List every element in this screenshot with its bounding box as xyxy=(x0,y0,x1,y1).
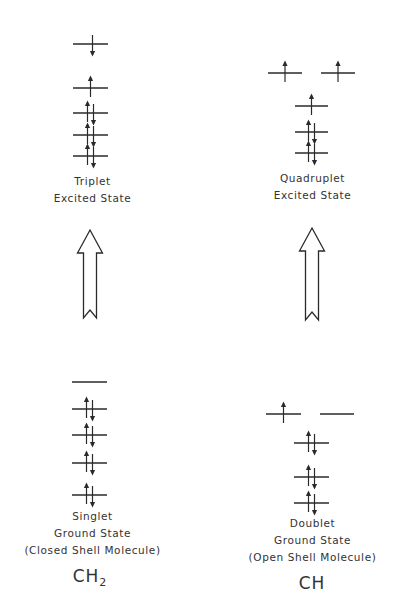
ch-excited-state-text: Excited State xyxy=(250,187,375,204)
ch-formula: CH xyxy=(262,573,362,593)
orbital-level-paired xyxy=(295,120,328,145)
orbital-level-paired xyxy=(294,491,329,516)
orbital-level-paired xyxy=(73,123,108,148)
orbital-level-paired xyxy=(73,144,108,169)
ch-ground-multiplicity: Doublet xyxy=(225,515,400,532)
ch2-ground-state-text: Ground State xyxy=(5,525,180,542)
ch-formula-main: CH xyxy=(299,573,326,593)
orbital-level-single-up xyxy=(321,61,355,83)
orbital-level-single-up xyxy=(73,76,108,98)
ch2-ground-state-label: Singlet Ground State (Closed Shell Molec… xyxy=(5,508,180,559)
ch-ground-state-label: Doublet Ground State (Open Shell Molecul… xyxy=(225,515,400,566)
ch2-excited-state-text: Excited State xyxy=(30,190,155,207)
orbital-level-single-up xyxy=(266,402,301,424)
orbital-level-paired xyxy=(72,483,107,508)
orbital-level-paired xyxy=(295,141,328,166)
ch-excited-multiplicity: Quadruplet xyxy=(250,170,375,187)
ch-transition-arrow-icon xyxy=(300,228,325,320)
orbital-level-single-up xyxy=(268,61,302,83)
ch2-excited-multiplicity: Triplet xyxy=(30,173,155,190)
ch2-formula-main: CH xyxy=(73,566,100,586)
orbital-level-paired xyxy=(72,451,107,476)
transition-arrows xyxy=(78,228,325,320)
orbital-level-paired xyxy=(294,465,329,490)
orbital-level-single-down xyxy=(73,35,108,57)
ch-excited-state-label: Quadruplet Excited State xyxy=(250,170,375,204)
ch2-ground-multiplicity: Singlet xyxy=(5,508,180,525)
ch2-formula-subscript: 2 xyxy=(99,576,107,589)
ch2-transition-arrow-icon xyxy=(78,230,103,318)
orbital-level-single-up xyxy=(295,94,328,116)
orbital-level-paired xyxy=(72,423,107,448)
orbital-level-paired xyxy=(72,397,107,422)
ch2-formula: CH2 xyxy=(40,566,140,589)
ch-shell-type: (Open Shell Molecule) xyxy=(225,549,400,566)
orbital-level-paired xyxy=(73,101,108,126)
ch-ground-state-text: Ground State xyxy=(225,532,400,549)
orbital-level-paired xyxy=(294,431,329,456)
ch2-excited-state-label: Triplet Excited State xyxy=(30,173,155,207)
ch2-shell-type: (Closed Shell Molecule) xyxy=(5,542,180,559)
